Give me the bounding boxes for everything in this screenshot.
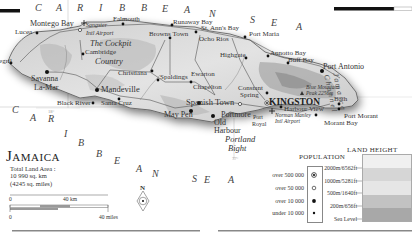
scale-km-end: 40 km bbox=[63, 196, 77, 202]
place-ocho-rios: Ocho Rios bbox=[199, 36, 229, 43]
place-montego-bay: Montego Bay bbox=[30, 20, 74, 28]
land-area-miles: (4245 sq. miles) bbox=[10, 180, 56, 187]
height-band-0-200 bbox=[363, 208, 411, 221]
place-black-river: Black River bbox=[57, 100, 91, 107]
graticule-lon: 77° bbox=[232, 157, 238, 162]
land-height-color-bar bbox=[362, 154, 412, 222]
place-lucea: Lucea bbox=[15, 29, 32, 36]
land-area-label: Total Land Area : bbox=[10, 165, 56, 172]
place-norman-manley-airport-2: Intl Airport bbox=[275, 119, 300, 125]
map-title: Jamaica bbox=[6, 148, 60, 165]
height-band-200-500 bbox=[363, 195, 411, 208]
place-spaldings: Spaldings bbox=[160, 74, 188, 81]
compass-north-label: N bbox=[140, 185, 145, 192]
place-highgate: Highgate bbox=[220, 52, 246, 59]
scale-mi-zero: 0 bbox=[9, 214, 12, 220]
height-band-500-1000 bbox=[363, 181, 411, 194]
population-row-over-50000: over 50 000 bbox=[275, 185, 304, 191]
land-area-km: 10 990 sq. km bbox=[10, 172, 56, 179]
place-browns-town: Browns Town bbox=[149, 31, 188, 38]
scale-bar bbox=[10, 195, 108, 212]
graticule-lat: 18° bbox=[48, 110, 54, 115]
compass-rose bbox=[137, 191, 149, 211]
height-band-1000-2000 bbox=[363, 168, 411, 181]
land-area-block: Total Land Area : 10 990 sq. km (4245 sq… bbox=[10, 165, 56, 187]
place-sangster-airport-2: Intl Airport bbox=[86, 30, 113, 36]
place-bath: Bath bbox=[334, 96, 347, 103]
place-christiana: Christiana bbox=[118, 70, 147, 77]
population-row-over-500000: over 500 000 bbox=[272, 172, 304, 178]
place-cambridge: Cambridge bbox=[85, 49, 116, 56]
height-label-500m: 500m/1640ft bbox=[327, 190, 357, 196]
place-savanna-la-mar-2: La-Mar bbox=[34, 84, 58, 92]
region-cockpit-1: The Cockpit bbox=[90, 39, 131, 48]
place-mandeville: Mandeville bbox=[101, 85, 140, 94]
region-cockpit-2: Country bbox=[95, 57, 123, 66]
place-port-royal-1: Port bbox=[253, 114, 263, 120]
place-constant-spring-2: Spring bbox=[240, 92, 259, 99]
place-port-antonio: Port Antonio bbox=[323, 63, 364, 71]
population-symbol-box bbox=[307, 166, 323, 223]
region-portland-bight-2: Bight bbox=[228, 144, 246, 153]
place-port-maria: Port Maria bbox=[249, 31, 279, 38]
height-label-sea-level: Sea Level bbox=[334, 216, 357, 222]
place-st-anns-bay: St. Ann's Bay bbox=[201, 25, 239, 32]
place-santa-cruz: Santa Cruz bbox=[101, 100, 132, 107]
height-label-1000m: 1000m/5281ft bbox=[324, 178, 357, 184]
place-morant-bay: Morant Bay bbox=[324, 120, 358, 127]
height-label-2000m: 2000m/6562ft bbox=[324, 165, 357, 171]
place-savanna-la-mar-1: Savanna bbox=[31, 75, 58, 83]
population-row-over-10000: over 10 000 bbox=[275, 198, 304, 204]
height-label-200m: 200m/656ft bbox=[330, 203, 357, 209]
place-may-pen: May Pen bbox=[164, 111, 193, 119]
height-band-above-2000 bbox=[363, 155, 411, 168]
place-ewarton: Ewarton bbox=[191, 71, 215, 78]
scale-km-zero: 0 bbox=[9, 196, 12, 202]
place-buff-bay: Buff Bay bbox=[288, 57, 314, 64]
place-blue-mountain-peak-2: Peak 2256m bbox=[306, 91, 333, 97]
place-falmouth: Falmouth bbox=[113, 16, 140, 23]
population-row-under-10000: under 10 000 bbox=[272, 210, 304, 216]
place-sangster-airport-1: Sangster bbox=[86, 22, 107, 28]
place-spanish-town: Spanish Town bbox=[186, 98, 234, 107]
place-port-royal-2: Royal bbox=[252, 121, 266, 127]
population-legend-title: POPULATION bbox=[299, 153, 345, 161]
place-chapelton: Chapelton bbox=[193, 84, 222, 91]
land-height-legend-title: LAND HEIGHT bbox=[347, 146, 398, 154]
frame-bar-left bbox=[0, 9, 20, 13]
scale-mi-end: 40 miles bbox=[99, 214, 118, 220]
place-negril: Negril bbox=[0, 58, 12, 65]
